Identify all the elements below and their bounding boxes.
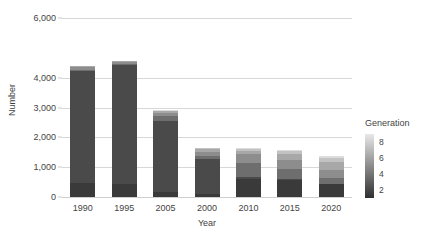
legend-tick-labels: 2468 — [379, 134, 435, 198]
bar-stack[interactable] — [319, 156, 344, 197]
bar-group[interactable]: 2015 — [277, 18, 302, 197]
y-axis-title-text: Number — [7, 84, 17, 116]
legend: Generation 2468 — [365, 118, 435, 198]
bar-segment[interactable] — [153, 121, 178, 193]
y-axis-tick-label: 3,000 — [33, 103, 62, 113]
y-axis-tick-label: 1,000 — [33, 162, 62, 172]
x-axis-tick-label: 2005 — [156, 203, 176, 213]
bar-segment[interactable] — [112, 65, 137, 183]
gridline — [62, 197, 352, 198]
bar-segment[interactable] — [277, 169, 302, 179]
bar-segment[interactable] — [277, 160, 302, 169]
bar-segment[interactable] — [70, 183, 95, 197]
y-axis-tick-label: 4,000 — [33, 73, 62, 83]
bar-group[interactable]: 2010 — [236, 18, 261, 197]
bar-segment[interactable] — [236, 163, 261, 177]
bar-segment[interactable] — [319, 162, 344, 169]
bar-segment[interactable] — [195, 194, 220, 197]
legend-tick-label: 4 — [379, 169, 384, 179]
bar-segment[interactable] — [70, 71, 95, 183]
y-axis-tick-label: 6,000 — [33, 13, 62, 23]
bar-segment[interactable] — [195, 159, 220, 195]
bar-stack[interactable] — [70, 66, 95, 197]
bar-group[interactable]: 1995 — [112, 18, 137, 197]
bar-segment[interactable] — [153, 192, 178, 197]
y-axis-title: Number — [4, 0, 20, 200]
legend-tick-label: 6 — [379, 153, 384, 163]
x-axis-title-text: Year — [198, 218, 216, 228]
bar-group[interactable]: 1990 — [70, 18, 95, 197]
chart-container: Number 01,0002,0003,0004,0006,000 199019… — [0, 0, 436, 242]
legend-colorbar — [365, 134, 374, 198]
bar-series-group: 1990199520052000201020152020 — [62, 18, 352, 197]
bar-stack[interactable] — [112, 61, 137, 197]
x-axis-tick-label: 1995 — [114, 203, 134, 213]
x-axis-tick-label: 2010 — [238, 203, 258, 213]
legend-tick-label: 2 — [379, 185, 384, 195]
bar-segment[interactable] — [319, 170, 344, 178]
bar-stack[interactable] — [195, 148, 220, 197]
legend-body: 2468 — [365, 134, 435, 198]
bar-stack[interactable] — [153, 110, 178, 197]
y-axis-tick-label: 2,000 — [33, 132, 62, 142]
x-axis-tick-label: 2015 — [280, 203, 300, 213]
legend-tick-label: 8 — [379, 137, 384, 147]
bar-segment[interactable] — [277, 180, 302, 197]
legend-title: Generation — [365, 118, 435, 128]
bar-segment[interactable] — [236, 179, 261, 197]
bar-segment[interactable] — [319, 184, 344, 197]
bar-stack[interactable] — [236, 148, 261, 197]
bar-segment[interactable] — [236, 154, 261, 163]
y-axis-tick-label: 0 — [51, 192, 62, 202]
bar-group[interactable]: 2020 — [319, 18, 344, 197]
bar-segment[interactable] — [112, 184, 137, 197]
bar-group[interactable]: 2005 — [153, 18, 178, 197]
x-axis-title: Year — [62, 218, 352, 228]
x-axis-tick-label: 2020 — [321, 203, 341, 213]
x-axis-tick-label: 1990 — [73, 203, 93, 213]
bar-stack[interactable] — [277, 150, 302, 197]
x-axis-tick-label: 2000 — [197, 203, 217, 213]
plot-area: 01,0002,0003,0004,0006,000 1990199520052… — [62, 18, 352, 197]
bar-group[interactable]: 2000 — [195, 18, 220, 197]
